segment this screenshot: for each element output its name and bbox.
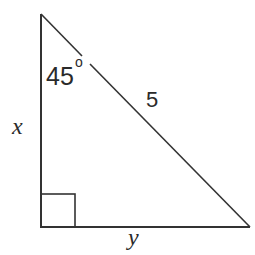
right-angle-marker <box>41 194 75 227</box>
angle-label: 45 <box>46 62 74 90</box>
hypotenuse-label: 5 <box>146 87 158 112</box>
leg-x-label: x <box>11 113 23 139</box>
hypotenuse-line-lower <box>90 64 250 227</box>
triangle-diagram: 45 o 5 x y <box>0 0 255 255</box>
hypotenuse-line-upper <box>41 14 82 56</box>
leg-y-label: y <box>126 224 139 250</box>
degree-symbol: o <box>75 54 83 70</box>
